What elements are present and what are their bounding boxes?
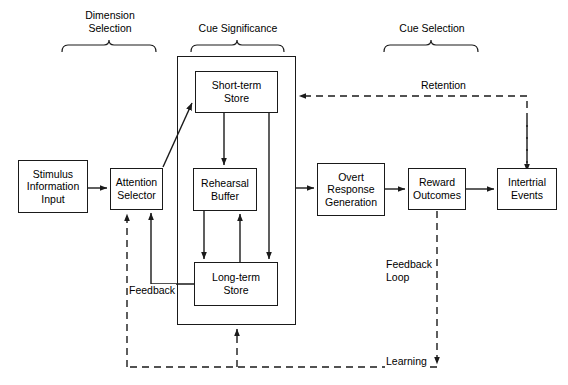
group-label-cue-selection: Cue Selection — [378, 22, 486, 35]
node-rehearsal-buffer[interactable]: Rehearsal Buffer — [193, 168, 257, 211]
node-long-term-store[interactable]: Long-term Store — [194, 262, 278, 306]
node-overt-response-generation[interactable]: Overt Response Generation — [317, 163, 385, 216]
node-stimulus-information-input[interactable]: Stimulus Information Input — [18, 160, 88, 213]
bracket-cue-significance — [191, 40, 284, 52]
edge-label-learning: Learning — [385, 355, 428, 368]
edge-retention-dashed — [299, 96, 527, 168]
diagram-canvas: Dimension Selection Cue Significance Cue… — [0, 0, 568, 385]
node-attention-selector[interactable]: Attention Selector — [110, 168, 163, 210]
edge-label-feedback: Feedback — [128, 284, 176, 297]
node-short-term-store[interactable]: Short-term Store — [195, 71, 278, 113]
bracket-dimension-selection — [62, 40, 156, 52]
edge-label-retention: Retention — [420, 79, 467, 92]
node-intertrial-events[interactable]: Intertrial Events — [497, 168, 557, 210]
bracket-cue-selection — [384, 40, 478, 52]
group-label-dimension-selection: Dimension Selection — [60, 9, 160, 35]
edge-label-feedback-loop: Feedback Loop — [385, 258, 433, 283]
group-label-cue-significance: Cue Significance — [180, 22, 296, 35]
node-reward-outcomes[interactable]: Reward Outcomes — [408, 168, 466, 210]
